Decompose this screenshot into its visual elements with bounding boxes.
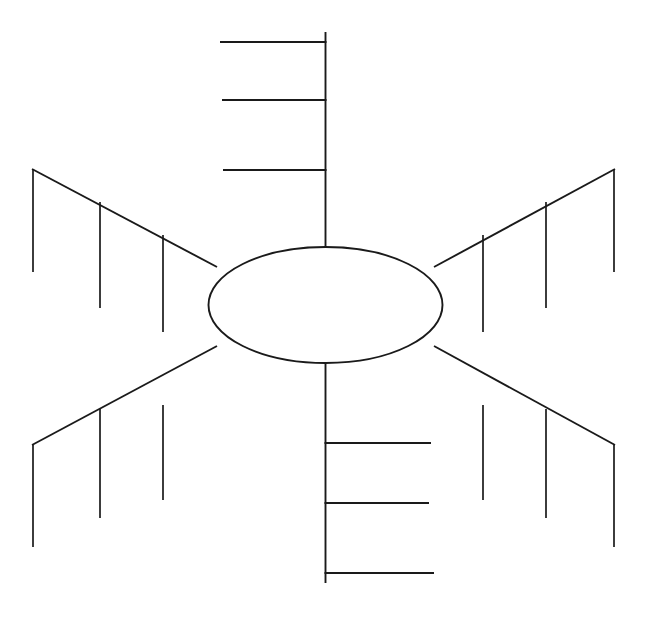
lower-right-branch-spine	[434, 346, 615, 445]
fishbone-diagram-canvas: Figure 1 Fishbone (Ishikawa) diagram	[0, 0, 646, 617]
upper-left-branch-spine	[32, 169, 217, 267]
problem-statement-head-ellipse[interactable]	[209, 247, 443, 363]
lower-left-branch-spine	[32, 346, 217, 445]
upper-right-branch-spine	[434, 169, 615, 267]
fishbone-diagram-svg	[0, 0, 646, 617]
